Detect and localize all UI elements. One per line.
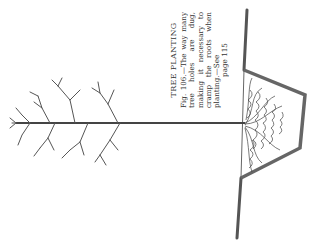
figure-caption: TREE PLANTING Fig. 106.—The way many tre… [150,10,250,110]
tree-branches [10,78,120,165]
page-reference: page 115 [222,12,230,108]
caption-text: Fig. 106.—The way many tree holes are du… [180,12,221,108]
planting-hole [241,70,305,178]
figure-title: TREE PLANTING [170,12,178,108]
caption-rotated-block: TREE PLANTING Fig. 106.—The way many tre… [170,12,229,108]
